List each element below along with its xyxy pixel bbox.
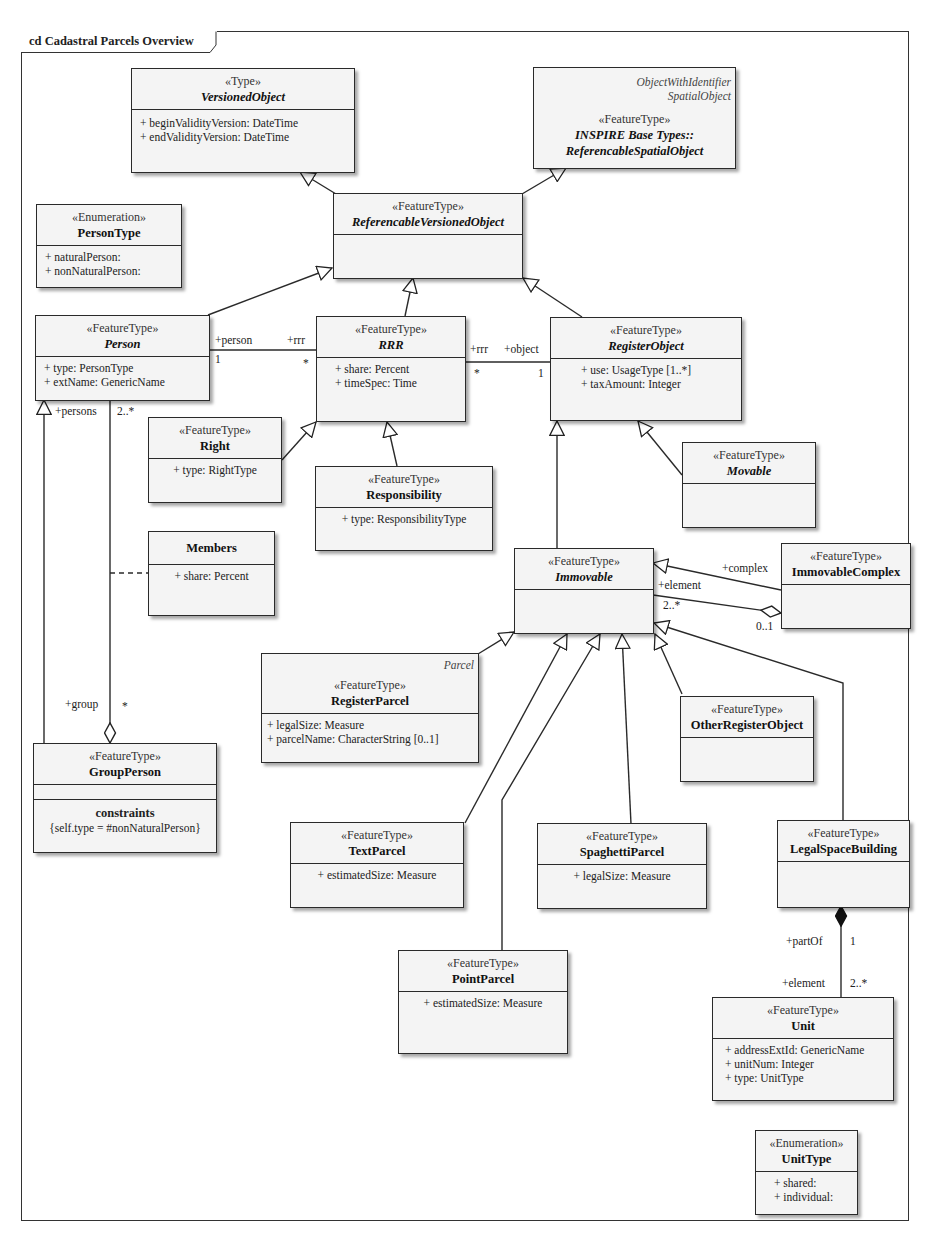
stereotype: «FeatureType» (542, 829, 702, 844)
class-header: «FeatureType» SpaghettiParcel (538, 824, 706, 865)
role-label-rrr: +rrr (287, 334, 305, 346)
multiplicity-complex: 0..1 (756, 620, 773, 632)
attribute-list: + estimatedSize: Measure (399, 992, 567, 1053)
class-point-parcel[interactable]: «FeatureType» PointParcel + estimatedSiz… (398, 950, 568, 1054)
stereotype: «Enumeration» (41, 210, 177, 225)
class-name: PersonType (41, 225, 177, 241)
multiplicity-group: * (122, 700, 128, 712)
class-responsibility[interactable]: «FeatureType» Responsibility + type: Res… (315, 466, 493, 551)
class-header: «FeatureType» TextParcel (291, 823, 463, 864)
class-header: «FeatureType» Right (149, 418, 281, 459)
class-members[interactable]: Members + share: Percent (148, 531, 275, 616)
stereotype: «FeatureType» (786, 549, 906, 564)
class-header: «FeatureType» ImmovableComplex (782, 544, 910, 585)
attribute-list (782, 585, 910, 628)
class-name: INSPIRE Base Types:: (538, 127, 731, 143)
role-label-person: +person (215, 334, 252, 346)
attribute-list: + type: PersonType + extName: GenericNam… (36, 357, 209, 400)
attribute: + taxAmount: Integer (581, 377, 733, 391)
class-header: «FeatureType» LegalSpaceBuilding (778, 821, 909, 862)
class-person[interactable]: «FeatureType» Person + type: PersonType … (35, 315, 210, 401)
attribute: + type: PersonType (44, 361, 201, 375)
stereotype: «Type» (136, 74, 350, 89)
class-group-person[interactable]: «FeatureType» GroupPerson constraints {s… (33, 743, 217, 853)
class-person-type[interactable]: «Enumeration» PersonType + naturalPerson… (36, 204, 182, 288)
attribute-list: + legalSize: Measure + parcelName: Chara… (262, 714, 478, 762)
generalization-movable-registerobject (638, 421, 682, 475)
class-rrr[interactable]: «FeatureType» RRR + share: Percent + tim… (316, 316, 466, 422)
attribute: + estimatedSize: Measure (299, 868, 455, 882)
class-name: PointParcel (403, 971, 563, 987)
attribute-list: + estimatedSize: Measure (291, 864, 463, 907)
attribute: + legalSize: Measure (546, 869, 698, 883)
class-referencable-spatial-object[interactable]: ObjectWithIdentifier SpatialObject «Feat… (533, 67, 736, 169)
attribute-list: + addressExtId: GenericName + unitNum: I… (713, 1039, 893, 1100)
class-name: ImmovableComplex (786, 564, 906, 580)
role-label-element: +element (658, 579, 701, 591)
tagged-value: SpatialObject (538, 89, 731, 103)
attribute-list (515, 590, 653, 633)
attribute-list: + shared: + individual: (756, 1172, 857, 1214)
attribute: + timeSpec: Time (335, 376, 457, 390)
attribute: + endValidityVersion: DateTime (140, 130, 346, 144)
class-text-parcel[interactable]: «FeatureType» TextParcel + estimatedSize… (290, 822, 464, 908)
attribute-compartment (34, 785, 216, 800)
class-versioned-object[interactable]: «Type» VersionedObject + beginValidityVe… (131, 68, 355, 173)
attribute: + parcelName: CharacterString [0..1] (267, 732, 470, 746)
class-name: OtherRegisterObject (685, 717, 809, 733)
class-legal-space-building[interactable]: «FeatureType» LegalSpaceBuilding (777, 820, 910, 908)
role-label-element: +element (782, 977, 825, 989)
class-name: UnitType (760, 1151, 853, 1167)
attribute: + unitNum: Integer (725, 1057, 885, 1071)
class-header: «FeatureType» Responsibility (316, 467, 492, 508)
attribute: + beginValidityVersion: DateTime (140, 116, 346, 130)
generalization-spaghettiparcel-immovable (622, 634, 631, 824)
generalization-registerobject-rvo (523, 278, 582, 317)
class-immovable-complex[interactable]: «FeatureType» ImmovableComplex (781, 543, 911, 629)
class-name: ReferencableSpatialObject (538, 143, 731, 159)
role-label-persons: +persons (55, 405, 97, 417)
enum-literal: + nonNaturalPerson: (45, 264, 173, 278)
attribute-list: + legalSize: Measure (538, 865, 706, 908)
class-header: «FeatureType» Unit (713, 998, 893, 1039)
class-name: RegisterObject (555, 338, 737, 354)
class-referencable-versioned-object[interactable]: «FeatureType» ReferencableVersionedObjec… (333, 193, 523, 279)
stereotype: «FeatureType» (320, 472, 488, 487)
class-register-object[interactable]: «FeatureType» RegisterObject + use: Usag… (550, 317, 742, 421)
enum-literal: + shared: (774, 1176, 849, 1190)
class-movable[interactable]: «FeatureType» Movable (682, 442, 816, 528)
multiplicity-object: 1 (538, 367, 544, 379)
class-spaghetti-parcel[interactable]: «FeatureType» SpaghettiParcel + legalSiz… (537, 823, 707, 909)
class-unit[interactable]: «FeatureType» Unit + addressExtId: Gener… (712, 997, 894, 1101)
stereotype: «FeatureType» (295, 828, 459, 843)
generalization-rrr-rvo (405, 278, 413, 316)
attribute: + legalSize: Measure (267, 718, 470, 732)
constraints-compartment: constraints {self.type = #nonNaturalPers… (34, 800, 216, 835)
attribute: + estimatedSize: Measure (407, 996, 559, 1010)
attribute-list (681, 738, 813, 781)
class-name: ReferencableVersionedObject (338, 214, 518, 230)
class-other-register-object[interactable]: «FeatureType» OtherRegisterObject (680, 696, 814, 782)
class-name: Unit (717, 1018, 889, 1034)
diagram-title: cd Cadastral Parcels Overview (29, 34, 194, 49)
class-name: Members (153, 540, 270, 556)
class-immovable[interactable]: «FeatureType» Immovable (514, 548, 654, 634)
class-name: Right (153, 438, 277, 454)
stereotype: «FeatureType» (538, 112, 731, 127)
attribute-list (683, 484, 815, 527)
class-header: «Enumeration» PersonType (37, 205, 181, 246)
diagram-title-tab: cd Cadastral Parcels Overview (21, 31, 217, 53)
class-header: «FeatureType» ReferencableVersionedObjec… (334, 194, 522, 235)
multiplicity-element: 2..* (850, 977, 867, 989)
class-right[interactable]: «FeatureType» Right + type: RightType (148, 417, 282, 503)
class-unit-type[interactable]: «Enumeration» UnitType + shared: + indiv… (755, 1130, 858, 1215)
class-register-parcel[interactable]: Parcel «FeatureType» RegisterParcel + le… (261, 653, 479, 763)
stereotype: «FeatureType» (717, 1003, 889, 1018)
attribute-list: + naturalPerson: + nonNaturalPerson: (37, 246, 181, 287)
stereotype: «FeatureType» (40, 321, 205, 336)
class-header: Members (149, 532, 274, 565)
class-header: «FeatureType» RegisterObject (551, 318, 741, 359)
class-header: ObjectWithIdentifier SpatialObject «Feat… (534, 68, 735, 163)
attribute: + type: UnitType (725, 1071, 885, 1085)
role-label-group: +group (65, 698, 98, 710)
